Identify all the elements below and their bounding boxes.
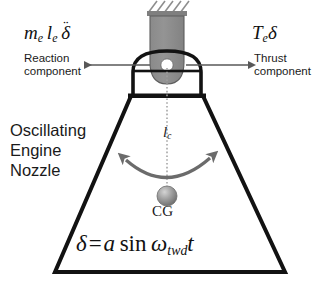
- thrust-formula-T: T: [252, 22, 263, 43]
- deflection-equation: δ = a sin ωtwdt: [76, 231, 194, 258]
- lc-length-label: lc: [163, 124, 171, 142]
- lc-subscript: c: [167, 131, 171, 141]
- oscillating-engine-nozzle-diagram: me le ¨δ Reaction component Teδ Thrust c…: [0, 0, 330, 285]
- cg-text-label: CG: [152, 203, 173, 220]
- reaction-formula-m: m: [24, 22, 38, 43]
- nozzle-title-line3: Nozzle: [10, 160, 86, 180]
- fixed-support-bar: [147, 11, 187, 16]
- equation-omega: ω: [151, 231, 167, 256]
- equation-delta: δ: [76, 231, 87, 256]
- thrust-formula: Teδ: [252, 22, 277, 46]
- reaction-formula-delta-ddot: ¨δ: [61, 22, 70, 43]
- double-dot-accent-icon: ¨: [63, 17, 68, 34]
- reaction-formula-m-sub: e: [38, 31, 43, 45]
- thrust-formula-delta: δ: [268, 22, 277, 43]
- nozzle-title-line1: Oscillating: [10, 120, 86, 140]
- thrust-caption-line1: Thrust: [254, 52, 311, 65]
- reaction-component-caption: Reaction component: [24, 52, 81, 78]
- nozzle-title-label: Oscillating Engine Nozzle: [10, 120, 86, 180]
- nozzle-title-line2: Engine: [10, 140, 86, 160]
- equation-time: t: [187, 231, 193, 256]
- reaction-caption-line1: Reaction: [24, 52, 81, 65]
- equation-sin: sin: [120, 231, 147, 256]
- equation-amplitude: a: [104, 231, 116, 256]
- reaction-formula-l-sub: e: [52, 31, 57, 45]
- thrust-component-caption: Thrust component: [254, 52, 311, 78]
- reaction-formula: me le ¨δ: [24, 22, 70, 46]
- thrust-caption-line2: component: [254, 65, 311, 78]
- equation-equals: =: [89, 231, 102, 256]
- reaction-caption-line2: component: [24, 65, 81, 78]
- equation-omega-sub: twd: [167, 243, 187, 258]
